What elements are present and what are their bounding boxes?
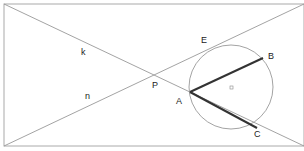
label-b: B [268,51,274,61]
geometry-diagram: k n P E B A C [0,0,304,151]
label-n: n [85,91,90,101]
label-e: E [201,35,207,45]
label-p: P [152,80,158,90]
chord-ac [190,92,257,128]
label-c: C [254,129,261,139]
chord-ab [190,58,263,92]
center-point [230,86,233,89]
label-a: A [176,96,182,106]
label-k: k [81,47,86,57]
